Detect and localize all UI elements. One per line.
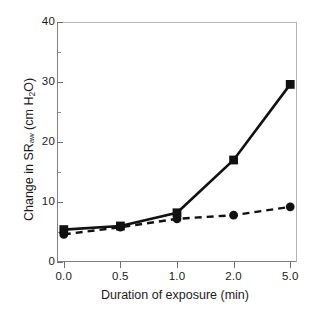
data-point-circle [286,202,295,211]
data-point-square [286,80,295,89]
data-point-circle [229,211,238,220]
chart-figure: 010203040 0.00.51.02.05.0 Change in SRaw… [0,0,317,315]
data-point-square [229,156,238,165]
x-axis-title: Duration of exposure (min) [40,288,310,302]
data-point-circle [116,223,125,232]
data-point-circle [173,214,182,223]
series-line-square [64,84,290,229]
y-axis-title: Change in SRaw (cm H2O) [22,35,37,265]
data-point-circle [59,230,68,239]
data-series-layer [0,0,317,315]
